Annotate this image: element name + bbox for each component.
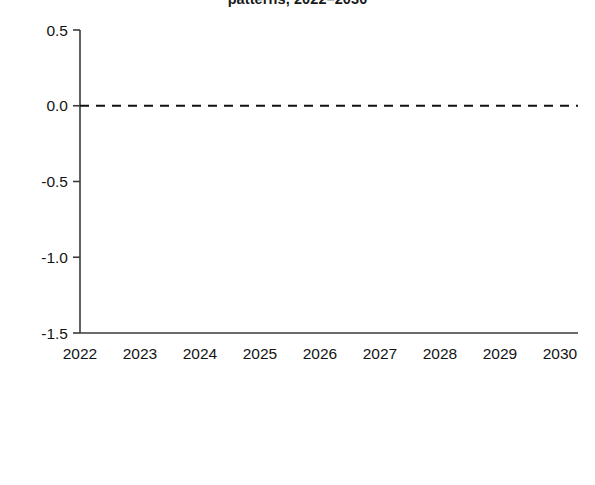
x-tick-label: 2030	[543, 345, 578, 362]
x-tick-label: 2022	[63, 345, 97, 362]
chart-title: patterns, 2022–2030	[0, 0, 595, 7]
line-chart: 0.50.0-0.5-1.0-1.52022202320242025202620…	[0, 0, 595, 485]
y-tick-label: -0.5	[41, 173, 68, 190]
x-tick-label: 2028	[423, 345, 457, 362]
x-tick-label: 2029	[483, 345, 517, 362]
x-tick-label: 2027	[363, 345, 397, 362]
x-tick-label: 2024	[183, 345, 218, 362]
y-tick-label: 0.0	[46, 97, 68, 114]
y-tick-label: 0.5	[46, 22, 68, 39]
x-tick-label: 2023	[123, 345, 157, 362]
x-tick-label: 2026	[303, 345, 337, 362]
x-tick-label: 2025	[243, 345, 277, 362]
y-tick-label: -1.5	[41, 325, 68, 342]
y-tick-label: -1.0	[41, 249, 68, 266]
chart-figure: patterns, 2022–2030 0.50.0-0.5-1.0-1.520…	[0, 0, 595, 485]
